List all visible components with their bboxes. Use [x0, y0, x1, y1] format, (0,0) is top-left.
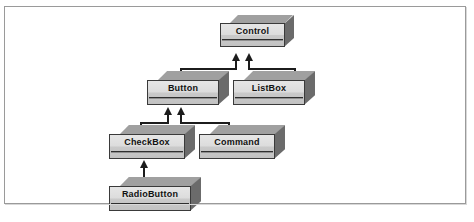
class-name-label: ListBox — [234, 83, 304, 94]
class-box-command[interactable]: Command — [199, 125, 285, 165]
class-name-label: CheckBox — [110, 137, 184, 148]
figure-container: Control Button ListBox — [0, 0, 474, 222]
connector-checkbox-to-button-horizontal — [140, 122, 169, 124]
class-box-front-face: Button — [147, 80, 219, 105]
connector-command-to-button-vertical — [180, 114, 182, 122]
class-name-label: RadioButton — [110, 189, 190, 200]
connector-command-to-button-horizontal — [180, 122, 230, 124]
connector-button-to-control-vertical — [235, 60, 237, 68]
class-divider — [201, 151, 273, 153]
class-divider — [235, 97, 303, 99]
class-divider — [149, 97, 217, 99]
class-name-label: Command — [200, 137, 274, 148]
class-box-front-face: Command — [199, 134, 275, 159]
class-box-control[interactable]: Control — [220, 15, 294, 53]
class-box-front-face: CheckBox — [109, 134, 185, 159]
connector-button-to-control-horizontal — [180, 68, 237, 70]
connector-listbox-to-control-horizontal — [248, 68, 296, 70]
class-divider — [222, 39, 283, 41]
class-box-front-face: Control — [220, 23, 285, 47]
class-name-label: Control — [221, 26, 284, 37]
connector-listbox-to-control-vertical — [248, 60, 250, 68]
class-box-listbox[interactable]: ListBox — [233, 71, 315, 111]
class-name-label: Button — [148, 83, 218, 94]
class-box-checkbox[interactable]: CheckBox — [109, 125, 195, 165]
class-box-button[interactable]: Button — [147, 71, 229, 111]
class-box-front-face: ListBox — [233, 80, 305, 105]
figure-frame: Control Button ListBox — [4, 6, 466, 204]
class-divider — [111, 151, 183, 153]
figure-caption — [6, 208, 436, 220]
connector-checkbox-to-button-vertical — [167, 114, 169, 122]
class-divider — [111, 203, 189, 205]
